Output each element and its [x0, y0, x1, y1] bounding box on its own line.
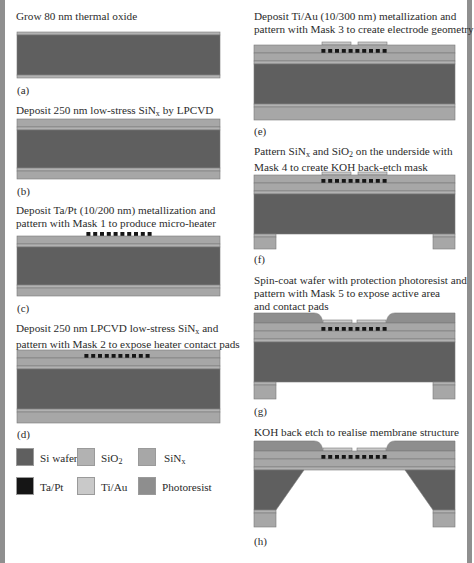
sio2-bottom-layer [17, 75, 220, 78]
si-wafer-right-etched [405, 470, 455, 510]
heater-segment [321, 179, 325, 183]
cross-section-c [17, 232, 221, 296]
heater-segment [355, 49, 359, 53]
caption-text: KOH back etch to realise membrane struct… [254, 426, 459, 438]
caption-line: pattern with Mask 5 to expose active are… [254, 287, 467, 300]
legend-label: SiN [164, 452, 181, 464]
legend-label: Ta/Pt [40, 481, 63, 493]
legend-subscript: x [181, 457, 185, 466]
heater-segment [362, 179, 366, 183]
sinx-upper-layer [254, 451, 455, 459]
sio2-bottom-layer [17, 285, 220, 288]
step-label-b: (b) [17, 185, 30, 197]
right-edge-bar [467, 0, 472, 563]
sio2-top-layer [254, 61, 455, 64]
sinx-mask-right [433, 385, 455, 399]
legend-swatch [138, 448, 156, 466]
sinx-mask-right [433, 237, 455, 249]
heater-segment [328, 327, 332, 331]
legend-swatch [138, 477, 156, 495]
caption-step-e: Deposit Ti/Au (10/300 nm) metallization … [254, 10, 474, 36]
photoresist-left [254, 441, 323, 451]
heater-segment [383, 49, 387, 53]
caption-step-b: Deposit 250 nm low-stress SiNx by LPCVD [16, 104, 213, 120]
caption-step-g: Spin-coat wafer with protection photores… [254, 274, 467, 313]
heater-segment [141, 232, 145, 236]
si-wafer [17, 247, 220, 285]
sinx-mask-left [254, 237, 276, 249]
sio2-mask-left [254, 510, 276, 513]
caption-text: Pattern SiN [254, 145, 306, 157]
sio2-mask-right [433, 234, 455, 237]
sinx-top-layer [17, 119, 220, 127]
si-wafer [254, 64, 455, 104]
step-label-f: (f) [254, 253, 265, 265]
heater-segment [362, 327, 366, 331]
heater-segment [107, 232, 111, 236]
heater-segment [376, 327, 380, 331]
sio2-top-layer [254, 191, 455, 194]
step-label-c: (c) [17, 302, 29, 314]
photoresist-left [254, 313, 323, 323]
sio2-bottom-layer [254, 104, 455, 107]
heater-segment [355, 327, 359, 331]
heater-segment [118, 354, 122, 358]
heater-segment [362, 455, 366, 459]
cross-section-a [17, 32, 221, 78]
sinx-top-layer [17, 236, 220, 244]
sio2-mask-right [433, 510, 455, 513]
caption-line: pattern with Mask 3 to create electrode … [254, 23, 474, 36]
left-edge-bar [0, 0, 5, 563]
heater-segment [91, 354, 95, 358]
caption-step-c: Deposit Ta/Pt (10/200 nm) metallization … [16, 204, 216, 230]
heater-segment [112, 354, 116, 358]
heater-segment [328, 455, 332, 459]
sio2-mask-left [254, 382, 276, 385]
caption-text: and [199, 322, 218, 334]
sinx-mask-left [254, 513, 276, 527]
photoresist-right [386, 313, 455, 323]
ti-au-electrode-right [358, 172, 387, 175]
heater-segment [321, 327, 325, 331]
sinx-bottom-layer [254, 107, 455, 120]
legend-swatch [77, 448, 95, 466]
sinx-mask-right [433, 513, 455, 527]
heater-segment [342, 327, 346, 331]
caption-step-h: KOH back etch to realise membrane struct… [254, 426, 459, 439]
cross-section-h [254, 441, 456, 529]
sinx-lower-layer [254, 53, 455, 61]
heater-segment [342, 455, 346, 459]
caption-line: and contact pads [254, 300, 467, 313]
heater-segment [376, 455, 380, 459]
cross-section-e [254, 42, 456, 120]
sinx-bottom-layer [17, 171, 220, 179]
heater-segment [98, 354, 102, 358]
sinx-lower-layer [254, 459, 455, 467]
caption-text: Deposit 250 nm LPCVD low-stress SiN [16, 322, 195, 334]
caption-line: pattern with Mask 1 to produce micro-hea… [16, 217, 216, 230]
step-label-d: (d) [17, 428, 30, 440]
sio2-bottom-layer [17, 168, 220, 171]
legend-label: Photoresist [162, 481, 212, 493]
heater-segment [383, 179, 387, 183]
caption-step-d: Deposit 250 nm LPCVD low-stress SiNx and… [16, 322, 240, 351]
heater-segment [335, 49, 339, 53]
heater-segment [335, 327, 339, 331]
sinx-upper-layer [254, 45, 455, 53]
legend-swatch [77, 477, 95, 495]
caption-text: Grow 80 nm thermal oxide [16, 10, 137, 22]
caption-step-a: Grow 80 nm thermal oxide [16, 10, 137, 23]
heater-segment [369, 327, 373, 331]
heater-segment [355, 455, 359, 459]
ti-au-electrode-left [322, 172, 351, 175]
sio2-mask-right [433, 382, 455, 385]
heater-segment [127, 232, 131, 236]
heater-segment [383, 327, 387, 331]
heater-segment [349, 327, 353, 331]
si-wafer [17, 130, 220, 168]
heater-segment [349, 49, 353, 53]
heater-segment [369, 455, 373, 459]
sio2-top-layer [17, 127, 220, 130]
legend-label: Ti/Au [101, 481, 127, 493]
cross-section-b [17, 119, 221, 179]
